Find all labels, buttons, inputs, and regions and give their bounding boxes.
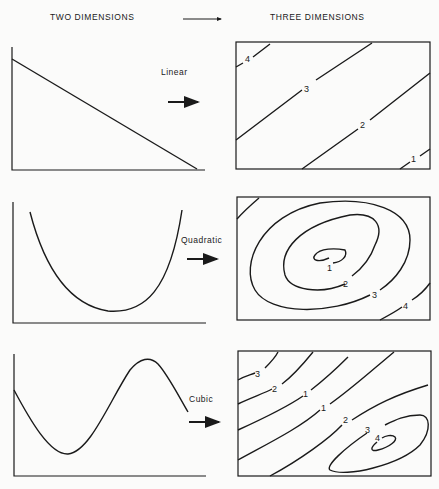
svg-text:4: 4 [245,54,250,64]
svg-text:3: 3 [255,369,260,379]
svg-text:2: 2 [272,384,277,394]
svg-text:3: 3 [372,290,377,300]
svg-text:3: 3 [365,425,370,435]
svg-text:4: 4 [403,301,408,311]
linear-contour-plot: 4 3 2 1 [236,42,430,169]
quadratic-2d-plot [13,202,206,323]
svg-text:3: 3 [304,84,309,94]
svg-text:2: 2 [343,415,348,425]
linear-2d-plot [12,47,205,170]
svg-text:1: 1 [327,263,332,273]
quadratic-contour-plot: 1 2 3 4 [237,197,430,320]
cubic-contour-plot: 3 2 1 1 2 3 4 [238,351,431,476]
svg-text:2: 2 [360,120,365,130]
cubic-2d-plot [14,354,206,476]
svg-text:1: 1 [303,389,308,399]
svg-text:1: 1 [321,403,326,413]
svg-text:1: 1 [411,154,416,164]
diagram-canvas: 4 3 2 1 1 2 3 4 3 2 1 1 [0,0,439,489]
svg-text:4: 4 [375,433,380,443]
svg-text:2: 2 [343,279,348,289]
